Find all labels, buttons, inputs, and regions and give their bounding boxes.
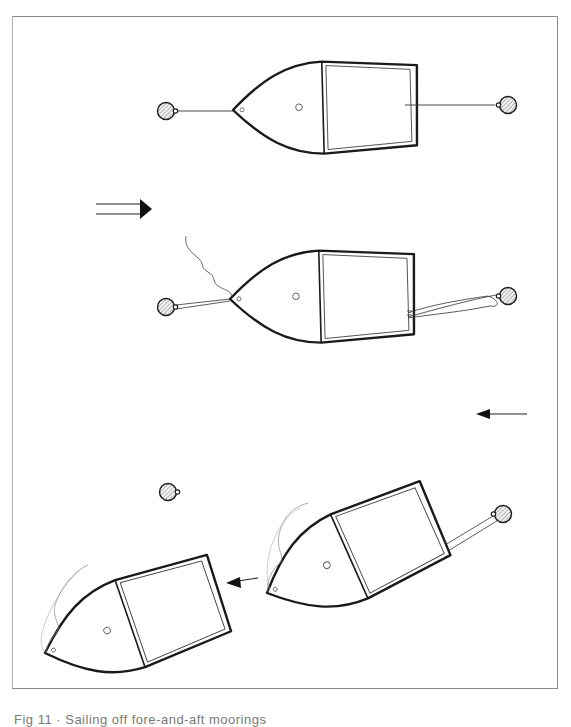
wind-arrow-icon: [476, 409, 527, 419]
stern-buoy-icon: [491, 506, 511, 523]
tide-arrow-icon: [96, 199, 152, 219]
stage-2-slipping-boat: [158, 236, 517, 345]
bow-buoy-icon: [158, 103, 178, 120]
flapping-sail-line: [186, 236, 232, 296]
bow-buoy-icon: [160, 484, 180, 501]
stern-buoy-icon: [496, 288, 516, 305]
boat-leaving-mooring: [248, 476, 511, 635]
stage-1-moored-boat: [158, 59, 517, 156]
figure-caption: Fig 11 · Sailing off fore-and-aft moorin…: [14, 712, 266, 727]
motion-arrow-icon: [226, 577, 258, 588]
boat-sailing-away: [30, 549, 235, 696]
stern-buoy-icon: [496, 97, 516, 114]
stage-3-departing: [30, 476, 511, 697]
bow-buoy-icon: [158, 299, 178, 316]
